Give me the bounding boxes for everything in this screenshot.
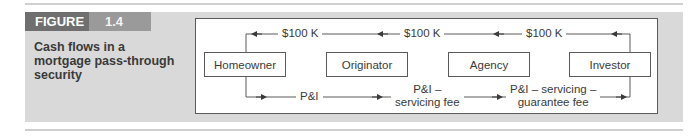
figure-label: FIGURE 1.4	[25, 12, 151, 31]
cash-flow-diagram: Homeowner Originator Agency Investor $10…	[195, 18, 658, 114]
bottom-flow-label-2-line1: P&I –	[395, 83, 460, 96]
bottom-flow-label-2-line2: servicing fee	[395, 96, 460, 109]
node-originator: Originator	[326, 52, 408, 77]
figure-word: FIGURE	[25, 12, 89, 31]
bottom-flow-label-2: P&I – servicing fee	[391, 83, 464, 109]
bottom-flow-label-1: P&I	[296, 90, 323, 103]
bottom-flow-label-3-line1: P&I – servicing –	[510, 83, 596, 96]
figure-number: 1.4	[89, 12, 151, 31]
bottom-flow-label-1-text: P&I	[300, 90, 319, 102]
top-flow-label-1: $100 K	[278, 27, 322, 40]
top-flow-label-2: $100 K	[400, 27, 444, 40]
top-rule	[25, 3, 683, 5]
bottom-rule	[25, 129, 683, 131]
top-flow-label-3: $100 K	[522, 27, 566, 40]
node-homeowner: Homeowner	[204, 52, 286, 77]
bottom-flow-label-3-line2: guarantee fee	[510, 96, 596, 109]
node-investor: Investor	[569, 52, 651, 77]
bottom-flow-label-3: P&I – servicing – guarantee fee	[506, 83, 600, 109]
node-agency: Agency	[448, 52, 530, 77]
figure-caption: Cash flows in a mortgage pass-through se…	[34, 40, 184, 82]
